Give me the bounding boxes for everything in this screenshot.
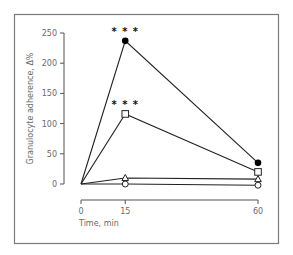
y-axis-title: Granulocyte adherence, Δ% (26, 52, 35, 164)
significance-stars: * * * (111, 99, 139, 110)
marker-open-square (122, 111, 129, 118)
x-axis: 01560 (78, 200, 263, 216)
data-series (81, 38, 261, 189)
y-tick-label: 100 (42, 120, 57, 129)
series-open-triangle (81, 174, 261, 184)
marker-open-square (255, 169, 262, 176)
chart-frame (15, 15, 279, 244)
series-open-square (81, 111, 261, 184)
x-tick-label: 15 (120, 207, 130, 216)
series-open-circle (81, 181, 261, 188)
x-tick-label: 60 (253, 207, 263, 216)
marker-filled-circle (255, 160, 262, 167)
chart: 050100150200250 01560 Granulocyte adhere… (0, 0, 293, 255)
y-axis: 050100150200250 (42, 29, 64, 189)
y-tick-label: 250 (42, 29, 57, 38)
marker-filled-circle (122, 38, 129, 45)
x-tick-label: 0 (78, 207, 83, 216)
marker-open-circle (255, 182, 261, 188)
y-tick-label: 200 (42, 59, 57, 68)
significance-stars: * * * (111, 26, 139, 37)
y-tick-label: 0 (52, 180, 57, 189)
y-tick-label: 150 (42, 89, 57, 98)
x-axis-title: Time, min (78, 219, 119, 228)
marker-open-circle (122, 181, 128, 187)
y-tick-label: 50 (47, 150, 57, 159)
